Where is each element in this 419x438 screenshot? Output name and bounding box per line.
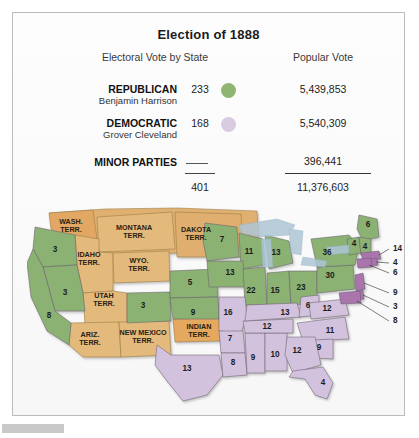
state-votes-michigan: 13	[271, 248, 281, 257]
state-new-jersey	[355, 273, 365, 291]
party-name: REPUBLICAN	[37, 83, 177, 95]
state-florida	[289, 367, 333, 399]
state-votes-oregon: 3	[53, 245, 58, 254]
infographic-frame: Election of 1888 Electoral Vote by State…	[12, 12, 405, 416]
popular-votes-democratic: 5,540,309	[263, 117, 383, 129]
electoral-votes-republican: 233	[186, 83, 214, 95]
territory-label-indian-terr-: TERR.	[188, 330, 210, 339]
state-votes-louisiana: 8	[231, 358, 236, 367]
state-votes-mississippi: 9	[251, 353, 256, 362]
state-votes-kentucky: 13	[280, 308, 290, 317]
leader-line-delaware	[363, 295, 389, 307]
popular-votes-republican: 5,439,853	[263, 83, 383, 95]
territory-label-wash-terr-: TERR.	[60, 225, 82, 234]
candidate-name: Grover Cleveland	[37, 129, 177, 140]
state-votes-california: 8	[47, 311, 52, 320]
popular-total-rule	[285, 173, 371, 174]
legend-row-minor-parties: MINOR PARTIES 396,441	[13, 155, 404, 181]
state-votes-new-hampshire: 4	[363, 242, 368, 251]
leader-line-maryland	[357, 301, 389, 321]
state-votes-colorado: 3	[141, 301, 146, 310]
territory-label-montana-terr-: TERR.	[123, 231, 145, 240]
state-votes-north-carolina: 11	[326, 326, 335, 335]
leader-vote-labels: 1446938	[393, 244, 403, 325]
party-name: MINOR PARTIES	[37, 156, 177, 168]
candidate-name: Benjamin Harrison	[37, 95, 177, 106]
state-maryland	[339, 291, 361, 304]
electoral-votes-minor-dash	[186, 163, 208, 164]
leader-line-new-jersey	[364, 283, 389, 293]
popular-votes-minor: 396,441	[263, 155, 383, 167]
state-votes-new-jersey: 9	[393, 288, 398, 297]
state-votes-tennessee: 12	[262, 322, 272, 331]
party-name: DEMOCRATIC	[37, 117, 177, 129]
state-votes-connecticut: 6	[393, 268, 398, 277]
party-republican: REPUBLICAN Benjamin Harrison	[37, 83, 177, 106]
party-minor: MINOR PARTIES	[37, 156, 177, 168]
state-connecticut	[357, 258, 372, 268]
state-votes-ohio: 23	[296, 283, 306, 292]
state-votes-virginia: 12	[322, 304, 332, 313]
state-votes-maryland: 8	[393, 316, 398, 325]
state-votes-south-carolina: 9	[317, 343, 322, 352]
state-colorado	[127, 292, 171, 323]
state-votes-alabama: 10	[270, 350, 280, 359]
state-texas	[155, 345, 223, 401]
state-votes-florida: 4	[321, 378, 326, 387]
state-votes-texas: 13	[182, 364, 192, 373]
party-democratic: DEMOCRATIC Grover Cleveland	[37, 117, 177, 140]
column-header-electoral: Electoral Vote by State	[75, 51, 235, 63]
scan-artifact-bar	[2, 424, 64, 433]
state-votes-georgia: 12	[292, 346, 302, 355]
territory-label-new-mexico-terr-: TERR.	[132, 336, 154, 345]
legend-row-republican: REPUBLICAN Benjamin Harrison 233 5,439,8…	[13, 83, 404, 109]
territory-label-dakota-terr-: TERR.	[185, 233, 207, 242]
state-votes-wisconsin: 11	[245, 247, 254, 256]
legend-swatch-democratic	[221, 117, 236, 132]
state-votes-arkansas: 7	[228, 334, 233, 343]
state-votes-rhode-island: 4	[393, 258, 398, 267]
leader-line-massachusetts	[379, 249, 389, 255]
state-votes-kansas: 9	[191, 308, 196, 317]
state-pennsylvania	[317, 265, 355, 293]
state-votes-iowa: 13	[225, 268, 235, 277]
popular-votes-total: 11,376,603	[263, 181, 383, 193]
state-georgia	[285, 337, 321, 373]
legend-swatch-republican	[221, 83, 236, 98]
state-votes-nevada: 3	[63, 288, 68, 297]
state-votes-nebraska: 5	[188, 278, 193, 287]
lake-huron	[289, 229, 303, 255]
state-votes-maine: 6	[366, 220, 371, 229]
state-votes-new-york: 36	[322, 248, 332, 257]
electoral-votes-total: 401	[186, 181, 214, 193]
state-votes-vermont: 4	[352, 239, 357, 248]
leader-line-connecticut	[369, 265, 389, 273]
state-votes-indiana: 15	[270, 286, 280, 295]
state-votes-pennsylvania: 30	[325, 271, 335, 280]
territory-label-idaho-terr-: TERR.	[78, 258, 100, 267]
territory-label-wyo-terr-: TERR.	[128, 264, 150, 273]
column-header-popular: Popular Vote	[263, 51, 383, 63]
state-votes-west-virginia: 6	[306, 301, 311, 310]
state-votes-missouri: 16	[223, 308, 233, 317]
electoral-votes-democratic: 168	[186, 117, 214, 129]
electoral-map: WASH.TERR.MONTANATERR.DAKOTATERR.IDAHOTE…	[27, 205, 405, 410]
legend-row-totals: 401 11,376,603	[13, 181, 404, 207]
territory-label-utah-terr-: TERR.	[93, 299, 115, 308]
territory-label-ariz-terr-: TERR.	[79, 338, 101, 347]
page-title: Election of 1888	[13, 27, 404, 42]
state-votes-massachusetts: 14	[393, 244, 403, 253]
state-votes-delaware: 3	[393, 302, 398, 311]
state-votes-minnesota: 7	[220, 235, 225, 244]
electoral-total-rule	[185, 173, 215, 174]
legend-row-democratic: DEMOCRATIC Grover Cleveland 168 5,540,30…	[13, 117, 404, 143]
state-kentucky	[245, 303, 301, 321]
state-votes-illinois: 22	[246, 286, 256, 295]
